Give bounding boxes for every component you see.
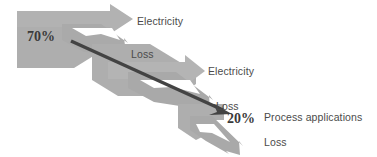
label-loss-2: Loss [216, 100, 239, 112]
flow-diagram-svg [0, 0, 377, 157]
label-loss-1: Loss [131, 48, 154, 60]
input-percent-label: 70% [27, 29, 55, 45]
label-loss-3: Loss [264, 136, 287, 148]
label-electricity-2: Electricity [208, 65, 254, 77]
output-percent-label: 20% [227, 111, 255, 127]
label-electricity-1: Electricity [137, 15, 183, 27]
energy-flow-diagram: 70% 20% Electricity Loss Electricity Los… [0, 0, 377, 157]
label-process-applications: Process applications [264, 111, 362, 123]
